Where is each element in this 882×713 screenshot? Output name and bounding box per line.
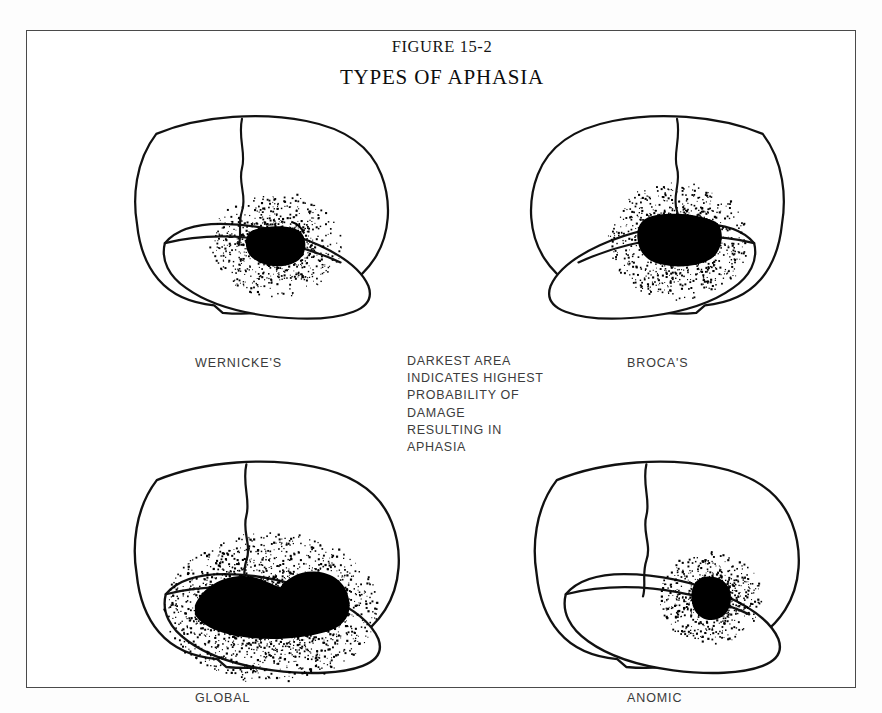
lesion-core-brocas [637,214,722,267]
brain-panel-wernickes [97,106,417,331]
brain-diagram-brocas [497,106,827,331]
title-block: FIGURE 15-2 TYPES OF APHASIA [27,37,857,90]
panel-label-wernickes: WERNICKE'S [195,356,282,370]
legend-note: DARKEST AREA INDICATES HIGHEST PROBABILI… [407,353,544,456]
panel-label-global: GLOBAL [195,691,250,705]
figure-root: FIGURE 15-2 TYPES OF APHASIA WERNICKE'S … [0,0,882,713]
lesion-core-anomic [691,577,731,621]
brain-panel-anomic [497,451,827,686]
brain-panel-brocas [497,106,827,331]
brain-diagram-wernickes [97,106,417,331]
brain-panel-global [97,451,427,686]
figure-frame: FIGURE 15-2 TYPES OF APHASIA WERNICKE'S … [26,30,856,688]
figure-title: TYPES OF APHASIA [27,65,857,90]
panel-label-anomic: ANOMIC [627,691,682,705]
brain-diagram-anomic [497,451,827,686]
brain-diagram-global [97,451,427,686]
panel-label-brocas: BROCA'S [627,356,688,370]
figure-number: FIGURE 15-2 [27,37,857,58]
